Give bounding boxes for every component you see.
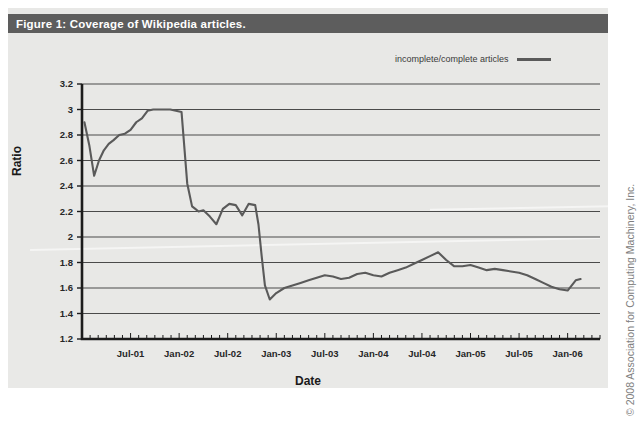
x-axis-tick-label: Jan-04	[358, 348, 389, 359]
y-axis-tick-label: 1.2	[60, 333, 73, 344]
y-axis-tick-label: 1.6	[60, 282, 73, 293]
x-axis-tick-labels: Jul-01Jan-02Jul-02Jan-03Jul-03Jan-04Jul-…	[117, 348, 583, 359]
y-axis-tick-label: 2.4	[60, 180, 74, 191]
x-axis-title: Date	[0, 374, 616, 388]
y-axis-tick-labels: 3.232.82.62.42.221.81.61.41.2	[60, 78, 74, 344]
x-axis-tick-label: Jul-04	[408, 348, 436, 359]
x-axis-tick-label: Jan-05	[455, 348, 486, 359]
x-axis-tick-label: Jan-03	[261, 348, 291, 359]
y-axis-tick-label: 2.2	[60, 206, 73, 217]
chart-svg: 3.232.82.62.42.221.81.61.41.2 Jul-01Jan-…	[0, 0, 644, 422]
y-axis-title: Ratio	[10, 146, 24, 176]
y-axis-tick-label: 3.2	[60, 78, 73, 89]
figure-root: Figure 1: Coverage of Wikipedia articles…	[0, 0, 644, 422]
y-axis-tick-label: 1.4	[60, 308, 74, 319]
y-axis-tick-label: 3	[68, 104, 73, 115]
x-axis-tick-label: Jul-03	[311, 348, 338, 359]
x-axis-tick-label: Jul-05	[505, 348, 533, 359]
y-axis-tick-label: 2.8	[60, 129, 73, 140]
data-series-line	[84, 110, 580, 300]
copyright-notice: © 2008 Association for Computing Machine…	[624, 184, 636, 416]
x-axis-tick-label: Jan-02	[164, 348, 194, 359]
x-axis-tick-label: Jul-01	[117, 348, 145, 359]
y-axis-tick-label: 2	[68, 231, 73, 242]
x-axis-tick-label: Jan-06	[553, 348, 583, 359]
x-axis-tick-label: Jul-02	[214, 348, 241, 359]
y-axis-tick-label: 2.6	[60, 155, 73, 166]
plot-area: 3.232.82.62.42.221.81.61.41.2 Jul-01Jan-…	[0, 0, 644, 422]
y-axis-tick-label: 1.8	[60, 257, 73, 268]
